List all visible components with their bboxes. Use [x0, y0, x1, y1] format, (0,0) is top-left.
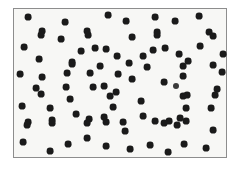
dot-marker: [176, 51, 183, 58]
dot-marker: [21, 44, 28, 51]
dot-marker: [203, 145, 210, 152]
dot-marker: [180, 63, 187, 70]
dot-marker: [126, 60, 133, 67]
dot-marker: [105, 12, 112, 19]
dot-marker: [150, 47, 157, 54]
dot-marker: [115, 71, 122, 78]
dot-marker: [85, 32, 92, 39]
dot-marker: [123, 18, 130, 25]
dot-marker: [49, 120, 56, 127]
dot-marker: [114, 53, 121, 60]
dot-marker: [208, 105, 215, 112]
dot-marker: [65, 141, 72, 148]
dot-marker: [62, 19, 69, 26]
dot-marker: [38, 32, 45, 39]
dot-marker: [103, 119, 110, 126]
dot-marker: [220, 51, 227, 58]
dot-marker: [39, 74, 46, 81]
dot-marker: [212, 92, 219, 99]
dot-marker: [161, 120, 168, 127]
dot-marker: [67, 96, 74, 103]
dot-marker: [38, 91, 45, 98]
dot-marker: [162, 45, 169, 52]
dot-marker: [180, 73, 187, 80]
dot-marker: [24, 122, 31, 129]
dot-marker: [92, 45, 99, 52]
dot-marker: [210, 62, 217, 69]
dot-marker: [183, 105, 190, 112]
dot-marker: [129, 76, 136, 83]
dot-marker: [147, 142, 154, 149]
dot-marker: [210, 33, 217, 40]
dot-marker: [144, 64, 151, 71]
dot-marker: [78, 48, 85, 55]
dot-marker: [58, 36, 65, 43]
dot-marker: [73, 111, 80, 118]
dot-marker: [120, 119, 127, 126]
dot-marker: [173, 83, 179, 89]
dot-marker: [210, 127, 217, 134]
dot-marker: [197, 43, 204, 50]
dot-marker: [103, 143, 110, 150]
dot-marker: [165, 149, 172, 156]
dot-marker: [110, 104, 117, 111]
dot-marker: [87, 70, 94, 77]
dot-marker: [36, 56, 43, 63]
dot-marker: [154, 32, 161, 39]
dot-marker: [140, 113, 147, 120]
dot-marker: [107, 93, 114, 100]
dot-marker: [103, 46, 110, 53]
dot-marker: [152, 14, 159, 21]
dot-marker: [63, 84, 70, 91]
dot-marker: [84, 120, 91, 127]
dot-marker: [129, 34, 136, 41]
dot-marker: [113, 89, 120, 96]
dot-marker: [152, 118, 159, 125]
dot-marker: [20, 139, 27, 146]
dot-marker: [181, 141, 188, 148]
dot-marker: [127, 146, 134, 153]
dot-marker: [19, 103, 26, 110]
dot-marker: [183, 118, 190, 125]
dot-marker: [97, 63, 104, 70]
dot-marker: [17, 71, 24, 78]
dot-marker: [219, 69, 226, 76]
dot-marker: [172, 18, 179, 25]
dot-marker: [180, 93, 187, 100]
dot-marker: [161, 79, 168, 86]
dot-marker: [101, 83, 108, 90]
dot-marker: [47, 148, 54, 155]
dot-marker: [140, 53, 147, 60]
dot-marker: [196, 13, 203, 20]
dot-marker: [138, 98, 145, 105]
dot-marker: [174, 122, 181, 129]
dot-marker: [25, 14, 32, 21]
dot-marker: [122, 128, 129, 135]
dot-marker: [64, 70, 71, 77]
dot-marker: [90, 84, 97, 91]
dot-marker: [47, 105, 54, 112]
dot-marker: [84, 135, 91, 142]
stimulus-canvas: [0, 0, 240, 170]
dot-marker: [69, 61, 76, 68]
